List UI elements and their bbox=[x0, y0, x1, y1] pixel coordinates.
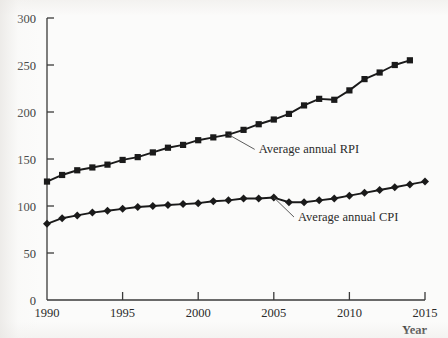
series-marker bbox=[120, 157, 126, 163]
annotation-leader-line bbox=[228, 135, 254, 150]
x-axis-tick-label: 2015 bbox=[413, 306, 438, 320]
series-marker bbox=[119, 205, 127, 213]
series-marker bbox=[59, 172, 65, 178]
series-marker bbox=[195, 137, 201, 143]
series-marker bbox=[331, 97, 337, 103]
series-marker bbox=[377, 69, 383, 75]
series-marker bbox=[89, 164, 95, 170]
series-marker bbox=[104, 162, 110, 168]
x-axis-tick-label: 2010 bbox=[337, 306, 362, 320]
series-marker bbox=[240, 194, 248, 202]
series-marker bbox=[240, 127, 246, 133]
series-marker bbox=[271, 116, 277, 122]
series-marker bbox=[330, 194, 338, 202]
series-marker bbox=[346, 87, 352, 93]
series-marker bbox=[300, 198, 308, 206]
series-marker bbox=[407, 57, 413, 63]
series-line bbox=[47, 60, 410, 181]
x-axis-tick-label: 2000 bbox=[186, 306, 211, 320]
series-marker bbox=[44, 178, 50, 184]
series-marker bbox=[392, 62, 398, 68]
series-marker bbox=[135, 154, 141, 160]
series-marker bbox=[285, 198, 293, 206]
series-marker bbox=[73, 211, 81, 219]
series-marker bbox=[194, 199, 202, 207]
series-marker bbox=[421, 178, 429, 186]
y-axis-tick-label: 50 bbox=[24, 247, 37, 261]
x-axis-tick-label: 1995 bbox=[110, 306, 135, 320]
x-axis-title: Year bbox=[402, 323, 427, 337]
series-marker bbox=[58, 214, 66, 222]
y-axis-tick-label: 250 bbox=[17, 59, 36, 73]
x-axis-tick-label: 1990 bbox=[35, 306, 60, 320]
series-marker bbox=[103, 207, 111, 215]
series-marker bbox=[376, 186, 384, 194]
series-marker bbox=[256, 121, 262, 127]
series-marker bbox=[286, 111, 292, 117]
series-marker bbox=[301, 102, 307, 108]
y-axis-tick-label: 150 bbox=[17, 153, 36, 167]
series-marker bbox=[361, 189, 369, 197]
y-axis-tick-label: 300 bbox=[17, 12, 36, 26]
series-marker bbox=[180, 142, 186, 148]
series-marker bbox=[361, 76, 367, 82]
chart-figure: 0501001502002503001990199520002005201020… bbox=[0, 0, 448, 338]
series-marker bbox=[165, 145, 171, 151]
annotation-label: Average annual RPI bbox=[259, 142, 359, 156]
price-index-line-chart: 0501001502002503001990199520002005201020… bbox=[0, 0, 448, 338]
series-marker bbox=[315, 196, 323, 204]
series-marker bbox=[149, 202, 157, 210]
series-marker bbox=[209, 197, 217, 205]
series-marker bbox=[88, 209, 96, 217]
series-marker bbox=[74, 167, 80, 173]
y-axis-tick-label: 200 bbox=[17, 106, 36, 120]
y-axis-tick-label: 100 bbox=[17, 200, 36, 214]
annotation-label: Average annual CPI bbox=[298, 210, 398, 224]
series-marker bbox=[345, 192, 353, 200]
series-marker bbox=[255, 194, 263, 202]
series-marker bbox=[406, 180, 414, 188]
series-marker bbox=[179, 200, 187, 208]
series-marker bbox=[210, 134, 216, 140]
series-marker bbox=[164, 201, 172, 209]
series-marker bbox=[391, 183, 399, 191]
x-axis-tick-label: 2005 bbox=[261, 306, 286, 320]
series-marker bbox=[43, 220, 51, 228]
series-marker bbox=[134, 203, 142, 211]
series-marker bbox=[224, 196, 232, 204]
series-marker bbox=[316, 96, 322, 102]
series-marker bbox=[150, 149, 156, 155]
series-1 bbox=[44, 57, 413, 184]
